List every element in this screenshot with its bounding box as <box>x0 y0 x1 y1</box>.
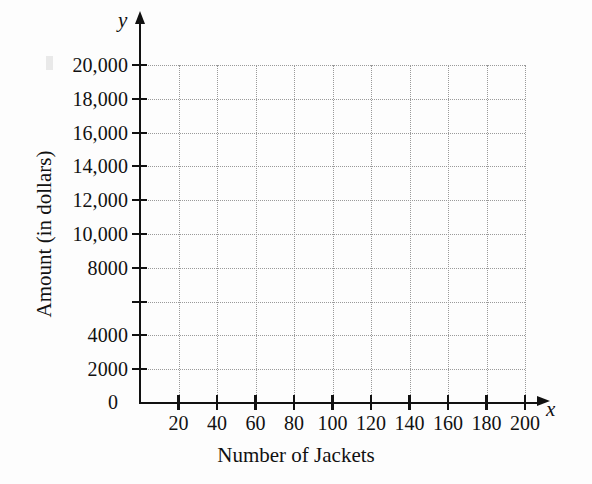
y-axis-tick <box>132 98 147 100</box>
gridline-vertical <box>256 65 257 403</box>
origin-label: 0 <box>108 392 118 412</box>
y-axis-variable-label: y <box>118 10 127 31</box>
x-axis-tick <box>254 395 256 410</box>
gridline-vertical <box>217 65 218 403</box>
x-axis-tick <box>331 395 333 410</box>
gridline-vertical <box>410 65 411 403</box>
x-axis-tick <box>293 395 295 410</box>
y-axis-tick <box>132 132 147 134</box>
gridline-vertical <box>371 65 372 403</box>
y-axis-title: Amount (in dollars) <box>32 104 56 364</box>
y-axis-line <box>139 22 141 404</box>
y-axis-tick <box>132 301 147 303</box>
y-axis-tick <box>132 233 147 235</box>
y-axis-tick <box>132 165 147 167</box>
x-axis-tick <box>447 395 449 410</box>
y-tick-label: 20,000 <box>28 55 128 75</box>
gridline-vertical <box>448 65 449 403</box>
y-axis-tick <box>132 334 147 336</box>
x-axis-tick <box>216 395 218 410</box>
x-axis-title: Number of Jackets <box>0 443 592 467</box>
y-axis-tick <box>132 199 147 201</box>
x-axis-tick <box>370 395 372 410</box>
x-axis-line <box>139 402 539 404</box>
x-axis-variable-label: x <box>546 399 555 420</box>
gridline-vertical <box>487 65 488 403</box>
x-axis-tick <box>485 395 487 410</box>
plot-area <box>140 65 525 403</box>
gridline-vertical <box>179 65 180 403</box>
x-axis-tick <box>408 395 410 410</box>
x-axis-tick <box>177 395 179 410</box>
y-axis-tick <box>132 267 147 269</box>
y-axis-tick <box>132 368 147 370</box>
x-axis-tick <box>524 395 526 410</box>
gridline-vertical <box>525 65 526 403</box>
y-axis-tick <box>132 64 147 66</box>
y-axis-arrow-icon <box>135 11 145 24</box>
graph-figure: 20004000800010,00012,00014,00016,00018,0… <box>0 0 592 484</box>
gridline-vertical <box>294 65 295 403</box>
gridline-vertical <box>333 65 334 403</box>
